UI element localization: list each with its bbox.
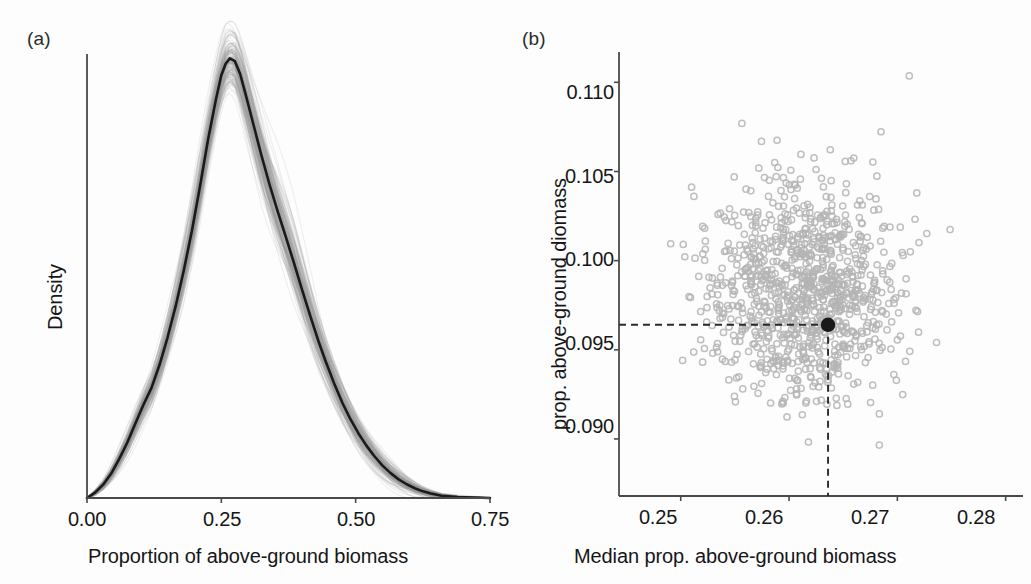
panel-b-scatter-plot: (b) prop. above-ground diomass Median pr… [512, 0, 1031, 584]
panel-b-xtick-0: 0.25 [639, 506, 677, 529]
panel-a-xtick-1: 0.25 [203, 508, 241, 531]
panel-b-xtick-1: 0.26 [745, 506, 783, 529]
panel-b-xtick-2: 0.27 [851, 506, 889, 529]
panel-a-xtick-3: 0.75 [471, 508, 509, 531]
panel-a-canvas [0, 0, 512, 584]
panel-b-ytick-4: 0.090 [558, 415, 614, 438]
panel-b-x-axis-title: Median prop. above-ground biomass [574, 545, 896, 568]
panel-b-ytick-2: 0.100 [558, 248, 614, 271]
panel-b-ytick-3: 0.095 [558, 332, 614, 355]
panel-a-y-axis-title: Density [44, 264, 67, 330]
panel-b-xtick-3: 0.28 [957, 506, 995, 529]
figure-container: (a) Density Proportion of above-ground b… [0, 0, 1031, 584]
panel-b-ytick-1: 0.105 [558, 165, 614, 188]
panel-a-xtick-0: 0.00 [68, 508, 106, 531]
panel-b-ytick-0: 0.110 [558, 81, 614, 104]
panel-a-x-axis-title: Proportion of above-ground biomass [88, 545, 408, 568]
panel-a-density-plot: (a) Density Proportion of above-ground b… [0, 0, 512, 584]
panel-b-y-axis-title: prop. above-ground diomass [548, 178, 571, 430]
panel-a-xtick-2: 0.50 [337, 508, 375, 531]
